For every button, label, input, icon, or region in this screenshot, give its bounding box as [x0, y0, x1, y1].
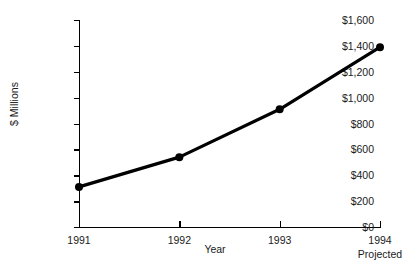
x-tick-sublabel: Projected — [358, 248, 402, 260]
series-polyline — [79, 47, 380, 187]
data-point-marker — [75, 183, 83, 191]
x-tick-mark — [380, 221, 381, 228]
data-series-line — [79, 20, 380, 228]
x-tick-label: 1993 — [268, 234, 291, 246]
x-tick-label: 1992 — [168, 234, 191, 246]
x-tick-label: 1991 — [67, 234, 90, 246]
chart-screenshot: $0$200$400$600$800$1,000$1,200$1,400$1,6… — [0, 0, 419, 272]
data-point-marker — [175, 153, 183, 161]
data-point-marker — [376, 43, 384, 51]
plot-area: $0$200$400$600$800$1,000$1,200$1,400$1,6… — [79, 20, 380, 228]
series-markers — [75, 43, 384, 191]
x-tick-label: 1994 — [368, 234, 391, 246]
data-point-marker — [276, 105, 284, 113]
y-axis-title: $ Millions — [8, 82, 20, 126]
x-axis-title: Year — [204, 243, 225, 255]
